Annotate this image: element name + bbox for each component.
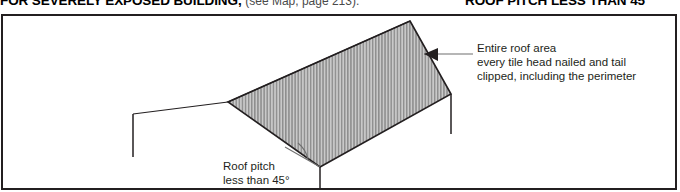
callout-roof-pitch: Roof pitch less than 45° — [223, 159, 290, 187]
callout-line: Entire roof area — [477, 41, 636, 55]
callout-line: Roof pitch — [223, 159, 290, 173]
roof-plane-hatched — [228, 21, 451, 167]
callout-entire-roof-area: Entire roof area every tile head nailed … — [477, 41, 636, 84]
figure-page: FOR SEVERELY EXPOSED BUILDING, (see Map,… — [0, 0, 680, 192]
callout-line: clipped, including the perimeter — [477, 69, 636, 83]
header-left-note: (see Map, page 213). — [245, 0, 359, 8]
callout-line: less than 45° — [223, 173, 290, 187]
header-left-title: FOR SEVERELY EXPOSED BUILDING, (see Map,… — [0, 0, 359, 8]
header-right-title: ROOF PITCH LESS THAN 45° — [465, 0, 650, 8]
page-header-strip: FOR SEVERELY EXPOSED BUILDING, (see Map,… — [0, 0, 680, 13]
far-eave-line — [133, 102, 228, 114]
figure-frame: Entire roof area every tile head nailed … — [1, 14, 677, 190]
callout-line: every tile head nailed and tail — [477, 55, 636, 69]
roof-main-plane — [228, 21, 451, 167]
header-left-title-text: FOR SEVERELY EXPOSED BUILDING, — [0, 0, 242, 8]
